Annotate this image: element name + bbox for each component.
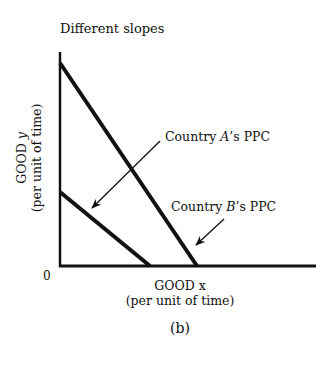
x-axis-label: GOOD x: [154, 278, 206, 293]
country-a-label: Country A’s PPC: [165, 129, 270, 144]
diagram-title: Different slopes: [60, 21, 165, 36]
country-b-ppc-line: [60, 63, 197, 266]
country-a-ppc-line: [60, 192, 150, 266]
origin-label: 0: [43, 269, 51, 283]
country-b-arrow: [196, 219, 224, 245]
y-axis-label: GOOD y: [14, 131, 29, 183]
x-axis-sublabel: (per unit of time): [126, 293, 235, 308]
ppc-diagram: Different slopes 0 Country A’s PPC Count…: [0, 0, 323, 367]
panel-label: (b): [170, 320, 190, 336]
y-axis-sublabel: (per unit of time): [29, 104, 44, 213]
country-b-label: Country B’s PPC: [171, 199, 276, 214]
